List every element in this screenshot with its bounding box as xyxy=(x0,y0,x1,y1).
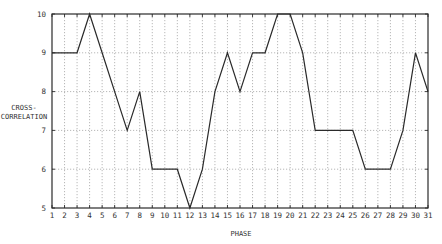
x-tick-label: 4 xyxy=(87,211,92,220)
y-axis-title-line1: CROSS- xyxy=(11,104,36,112)
x-tick-label: 22 xyxy=(311,211,320,220)
y-tick-label: 5 xyxy=(41,204,46,213)
y-axis-ticks: 5678910 xyxy=(37,10,47,213)
x-tick-label: 23 xyxy=(323,211,332,220)
x-tick-label: 1 xyxy=(50,211,55,220)
x-tick-label: 11 xyxy=(173,211,182,220)
y-tick-label: 6 xyxy=(41,165,46,174)
y-tick-label: 9 xyxy=(41,48,46,57)
x-tick-label: 16 xyxy=(235,211,245,220)
grid-lines xyxy=(52,14,428,208)
x-tick-label: 10 xyxy=(160,211,170,220)
cross-correlation-chart: 1234567891011121314151617181920212223242… xyxy=(0,0,442,244)
y-tick-label: 7 xyxy=(41,126,46,135)
y-tick-label: 10 xyxy=(37,10,47,19)
x-tick-label: 2 xyxy=(62,211,67,220)
x-tick-label: 12 xyxy=(185,211,194,220)
x-tick-label: 26 xyxy=(361,211,371,220)
x-axis-ticks: 1234567891011121314151617181920212223242… xyxy=(50,211,433,220)
x-tick-label: 5 xyxy=(100,211,105,220)
x-tick-label: 7 xyxy=(125,211,130,220)
x-tick-label: 20 xyxy=(286,211,296,220)
y-tick-label: 8 xyxy=(41,87,46,96)
x-tick-label: 3 xyxy=(75,211,80,220)
x-tick-label: 25 xyxy=(348,211,357,220)
x-tick-label: 30 xyxy=(411,211,421,220)
y-axis-title-line2: CORRELATION xyxy=(1,113,47,121)
x-tick-label: 19 xyxy=(273,211,282,220)
x-tick-label: 17 xyxy=(248,211,257,220)
x-tick-label: 15 xyxy=(223,211,232,220)
x-tick-label: 6 xyxy=(112,211,117,220)
x-axis-title: PHASE xyxy=(230,230,251,238)
x-tick-label: 29 xyxy=(398,211,407,220)
x-tick-label: 27 xyxy=(373,211,382,220)
x-tick-label: 31 xyxy=(423,211,432,220)
x-tick-label: 13 xyxy=(198,211,207,220)
x-tick-label: 21 xyxy=(298,211,307,220)
x-tick-label: 8 xyxy=(137,211,142,220)
x-tick-label: 28 xyxy=(386,211,396,220)
x-tick-label: 18 xyxy=(261,211,271,220)
x-tick-label: 14 xyxy=(210,211,220,220)
x-tick-label: 24 xyxy=(336,211,346,220)
x-tick-label: 9 xyxy=(150,211,155,220)
